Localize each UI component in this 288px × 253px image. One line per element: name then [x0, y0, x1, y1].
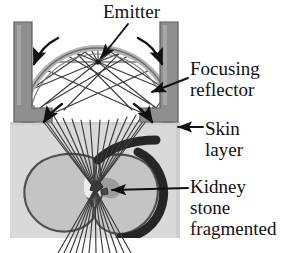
label-focusing-reflector: Focusing reflector	[190, 58, 260, 100]
lithotripsy-diagram: Emitter Focusing reflector Skin layer Ki…	[0, 0, 288, 253]
label-skin-layer: Skin layer	[205, 118, 243, 160]
emitter-point	[95, 59, 100, 64]
label-kidney-stone: Kidney stone fragmented	[190, 176, 277, 239]
label-emitter: Emitter	[103, 1, 160, 22]
